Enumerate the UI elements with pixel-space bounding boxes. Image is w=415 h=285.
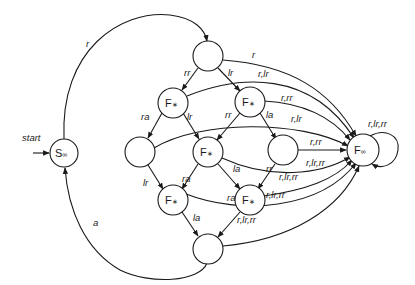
- svg-text:la: la: [266, 109, 273, 120]
- svg-text:rr: rr: [184, 67, 191, 78]
- node-top: [193, 41, 223, 71]
- node-f5: F∗: [235, 185, 265, 215]
- svg-text:ra: ra: [141, 111, 149, 122]
- edge-right-to-f5: rr: [258, 163, 275, 189]
- svg-text:r: r: [252, 49, 256, 60]
- start-arrow: start: [22, 132, 49, 153]
- edge-top-to-f1: rr: [182, 67, 198, 90]
- svg-text:rr: rr: [266, 163, 273, 174]
- start-label: start: [22, 132, 41, 143]
- edge-f4-to-bottom: la: [182, 212, 200, 236]
- svg-text:r,rr: r,rr: [310, 136, 322, 147]
- edge-top-to-f2: lr: [218, 67, 240, 91]
- node-s-inf: S∞: [50, 139, 78, 167]
- svg-text:a: a: [93, 217, 98, 228]
- svg-text:r,lr: r,lr: [258, 68, 269, 79]
- svg-text:r: r: [86, 38, 90, 49]
- edge-f3-to-f5: la: [218, 163, 240, 189]
- node-bottom: [193, 234, 223, 264]
- edge-f1-to-left: ra: [141, 111, 162, 138]
- edge-f2-to-f3: rr: [217, 109, 240, 140]
- node-f-inf: F∞: [347, 134, 379, 166]
- edge-right-to-finf: r,rr: [298, 136, 346, 150]
- svg-text:rr: rr: [225, 109, 232, 120]
- svg-text:ra: ra: [227, 192, 235, 203]
- node-f3: F∗: [193, 137, 223, 167]
- edge-bottom-to-s: a: [65, 168, 207, 280]
- svg-text:r,rr: r,rr: [281, 92, 293, 103]
- node-f1: F∗: [158, 88, 188, 118]
- svg-text:la: la: [193, 212, 200, 223]
- node-right: [268, 135, 298, 165]
- node-f2: F∗: [235, 87, 265, 117]
- node-left: [125, 137, 155, 167]
- svg-text:r,lr,rr: r,lr,rr: [266, 189, 286, 200]
- svg-text:r,lr,rr: r,lr,rr: [237, 214, 257, 225]
- svg-text:ra: ra: [182, 173, 190, 184]
- svg-text:r,lr,rr: r,lr,rr: [306, 157, 326, 168]
- automaton-diagram: start r a rr lr r ra lr r,lr rr: [0, 0, 415, 285]
- svg-text:lr: lr: [187, 111, 193, 122]
- svg-text:lr: lr: [228, 67, 234, 78]
- edge-left-to-f4: lr: [143, 165, 163, 189]
- svg-text:r,lr,rr: r,lr,rr: [368, 118, 388, 129]
- edge-f3-to-f4: ra: [182, 164, 198, 189]
- svg-text:r,lr: r,lr: [291, 113, 302, 124]
- node-f4: F∗: [158, 185, 188, 215]
- svg-text:lr: lr: [143, 177, 149, 188]
- svg-text:r,lr,rr: r,lr,rr: [279, 171, 299, 182]
- edge-f2-to-right: la: [260, 109, 276, 139]
